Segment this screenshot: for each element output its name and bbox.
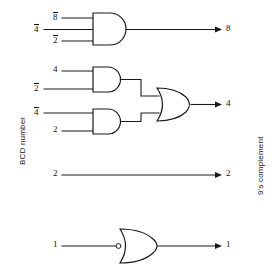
circuit-schematic-svg	[0, 0, 274, 271]
label-output-1: 1	[226, 240, 231, 249]
row-8-group	[44, 13, 222, 45]
arrowhead-output-1	[215, 243, 222, 249]
or-gate-4	[157, 88, 190, 121]
arrowhead-output-4	[215, 102, 222, 108]
label-input-4bar-lower: 4	[34, 107, 39, 117]
row-4-group	[44, 67, 222, 134]
axis-label-nines-complement: 9's complement	[256, 136, 265, 195]
label-input-4-upper: 4	[53, 65, 58, 74]
wire-and-lower-to-or	[121, 113, 160, 122]
axis-label-bcd-number: BCD number	[18, 117, 27, 165]
and-gate-upper	[93, 67, 120, 92]
input-bubble-icon	[116, 244, 121, 249]
label-input-2: 2	[53, 169, 58, 178]
or-gate-1	[120, 229, 157, 263]
wire-and-upper-to-or	[121, 80, 160, 97]
arrowhead-output-2	[215, 172, 222, 178]
label-input-2bar: 2	[53, 35, 58, 45]
label-output-2: 2	[226, 169, 231, 178]
label-output-8: 8	[226, 24, 231, 33]
circuit-diagram: 8 4 2 8 4 2 4 2 4 2 2 1 1 BCD number 9's…	[0, 0, 274, 271]
label-input-4bar: 4	[34, 24, 39, 34]
label-input-2-lower: 2	[53, 125, 58, 134]
label-input-1: 1	[53, 240, 58, 249]
arrowhead-output-8	[215, 27, 222, 33]
label-input-2bar-upper: 2	[34, 83, 39, 93]
and-gate-8	[93, 13, 126, 45]
row-2-group	[62, 172, 222, 178]
label-input-8bar: 8	[53, 12, 58, 22]
row-1-group	[62, 229, 222, 263]
label-output-4: 4	[226, 99, 231, 108]
and-gate-lower	[93, 109, 120, 134]
